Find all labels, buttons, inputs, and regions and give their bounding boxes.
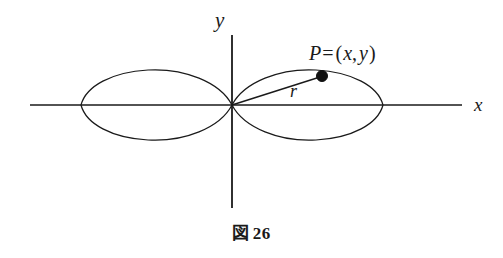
point-p-marker <box>317 71 328 82</box>
x-axis-label: x <box>474 95 482 114</box>
figure-caption: 図26 <box>0 219 503 244</box>
figure-caption-label: 図 <box>232 223 250 243</box>
y-axis-label: y <box>215 10 224 31</box>
figure-caption-number: 26 <box>250 224 271 243</box>
point-p-open-paren: ( <box>335 42 344 64</box>
point-p-close-paren: ) <box>368 42 377 64</box>
point-p-symbol: P <box>309 42 321 64</box>
radius-segment <box>232 77 320 105</box>
point-p-comma: , <box>352 42 359 64</box>
point-p-x-coordinate: x <box>343 42 352 64</box>
point-p-label: P=(x,y) <box>309 43 377 63</box>
point-p-y-coordinate: y <box>359 42 368 64</box>
point-p-equals: = <box>321 42 334 64</box>
figure-container: y x r P=(x,y) 図26 <box>0 0 503 258</box>
radius-label: r <box>290 82 297 100</box>
